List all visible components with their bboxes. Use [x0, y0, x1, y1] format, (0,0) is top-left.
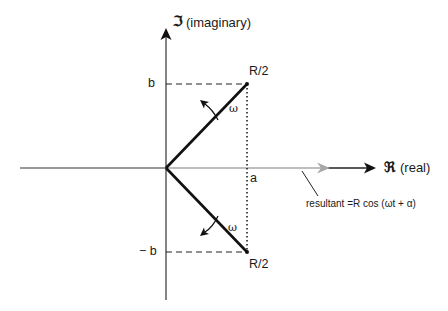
phasor-diagram: ℑ (imaginary) ℜ (real) b − b a R/2 R/2 ω…	[0, 0, 448, 311]
upper-phasor	[166, 84, 247, 168]
resultant-annotation: resultant =R cos (ωt + α)	[306, 199, 416, 209]
real-symbol: ℜ	[384, 160, 395, 174]
diagram-canvas	[0, 0, 448, 311]
tick-b: b	[148, 77, 155, 90]
resultant-leader-line	[302, 171, 318, 196]
lower-phasor-tip	[245, 250, 249, 254]
tick-a: a	[250, 172, 257, 185]
upper-phasor-tip	[245, 82, 249, 86]
lower-phasor-label: R/2	[249, 258, 268, 271]
lower-omega-label: ω	[228, 222, 237, 233]
imaginary-axis-label: (imaginary)	[186, 16, 251, 29]
resultant-vector	[166, 163, 330, 174]
lower-phasor	[166, 168, 247, 252]
imaginary-symbol: ℑ	[173, 14, 183, 28]
upper-phasor-label: R/2	[249, 65, 268, 78]
upper-omega-label: ω	[229, 103, 238, 114]
tick-neg-b: − b	[139, 245, 157, 258]
real-axis-label: (real)	[400, 161, 430, 174]
